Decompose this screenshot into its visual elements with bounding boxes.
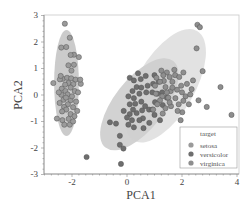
point-versicolor (130, 107, 135, 112)
legend-marker-virginica (188, 160, 193, 165)
point-versicolor (133, 101, 138, 106)
point-versicolor (126, 94, 131, 99)
point-virginica (170, 85, 175, 90)
point-setosa (71, 105, 76, 110)
legend: target setosa versicolor virginica (180, 127, 237, 168)
point-versicolor (143, 73, 148, 78)
point-versicolor (141, 126, 146, 131)
y-tick-label: -2 (31, 143, 39, 153)
point-setosa (71, 62, 76, 67)
point-virginica (160, 111, 165, 116)
point-setosa (74, 99, 79, 104)
point-setosa (78, 77, 83, 82)
y-tick-label: 3 (34, 10, 39, 20)
point-versicolor (139, 85, 144, 90)
point-versicolor (130, 88, 135, 93)
legend-title: target (200, 130, 216, 138)
point-versicolor (145, 83, 150, 88)
pca-scatter-chart: 3 2 1 0 -1 -2 -3 -2 0 2 4 PCA1 PCA2 targ… (0, 0, 250, 211)
point-virginica (152, 83, 157, 88)
point-virginica (184, 81, 189, 86)
point-virginica (172, 67, 177, 72)
point-virginica (157, 79, 162, 84)
point-versicolor (84, 154, 89, 159)
point-setosa (62, 122, 67, 127)
point-setosa (64, 44, 69, 49)
point-versicolor (127, 102, 132, 107)
point-virginica (200, 69, 205, 74)
y-tick-label: -3 (31, 169, 39, 179)
legend-label: setosa (200, 142, 218, 150)
y-tick-labels: 3 2 1 0 -1 -2 -3 (31, 10, 39, 179)
point-setosa (57, 100, 62, 105)
y-tick-label: -1 (31, 116, 39, 126)
legend-marker-setosa (188, 142, 193, 147)
point-setosa (56, 90, 61, 95)
point-virginica (177, 74, 182, 79)
legend-label: versicolor (200, 151, 229, 159)
point-versicolor (117, 133, 122, 138)
point-virginica (174, 87, 179, 92)
point-setosa (67, 35, 72, 40)
legend-marker-versicolor (188, 151, 193, 156)
point-setosa (75, 108, 80, 113)
point-virginica (178, 118, 183, 123)
point-versicolor (131, 125, 136, 130)
point-versicolor (137, 91, 142, 96)
point-virginica (170, 79, 175, 84)
x-tick-labels: -2 0 2 4 (68, 177, 240, 187)
x-tick-label: 0 (125, 177, 130, 187)
point-setosa (63, 95, 68, 100)
point-versicolor (124, 115, 129, 120)
point-setosa (54, 116, 59, 121)
point-virginica (179, 83, 184, 88)
point-setosa (68, 52, 73, 57)
point-versicolor (137, 118, 142, 123)
point-versicolor (139, 99, 144, 104)
point-setosa (69, 68, 74, 73)
point-virginica (229, 112, 234, 117)
point-virginica (166, 95, 171, 100)
point-versicolor (138, 77, 143, 82)
point-versicolor (107, 120, 112, 125)
x-axis-label: PCA1 (126, 188, 155, 202)
point-versicolor (129, 118, 134, 123)
point-setosa (60, 109, 65, 114)
point-setosa (62, 21, 67, 26)
point-setosa (66, 63, 71, 68)
point-virginica (176, 102, 181, 107)
y-tick-label: 2 (34, 37, 39, 47)
point-virginica (163, 106, 168, 111)
point-setosa (72, 114, 77, 119)
point-versicolor (144, 90, 149, 95)
point-setosa (69, 94, 74, 99)
point-versicolor (127, 75, 132, 80)
point-virginica (167, 100, 172, 105)
point-virginica (194, 46, 199, 51)
point-virginica (190, 78, 195, 83)
point-virginica (153, 91, 158, 96)
point-versicolor (135, 71, 140, 76)
point-setosa (59, 45, 64, 50)
point-virginica (163, 84, 168, 89)
point-virginica (188, 92, 193, 97)
point-setosa (76, 55, 81, 60)
point-virginica (204, 104, 209, 109)
y-tick-label: 1 (34, 63, 39, 73)
x-tick-label: 4 (235, 177, 240, 187)
point-versicolor (118, 161, 123, 166)
point-setosa (58, 73, 63, 78)
point-versicolor (134, 84, 139, 89)
point-versicolor (121, 108, 126, 113)
x-tick-label: 2 (180, 177, 185, 187)
point-virginica (151, 107, 156, 112)
point-virginica (186, 102, 191, 107)
point-virginica (155, 102, 160, 107)
point-setosa (75, 90, 80, 95)
point-virginica (180, 110, 185, 115)
point-virginica (189, 87, 194, 92)
point-versicolor (131, 96, 136, 101)
y-axis-label: PCA2 (11, 80, 25, 109)
point-virginica (173, 96, 178, 101)
point-virginica (218, 84, 223, 89)
